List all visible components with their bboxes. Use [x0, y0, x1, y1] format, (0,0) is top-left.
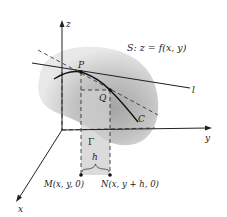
point-N-label: N(x, y + h, 0)	[100, 179, 159, 189]
y-arrowhead	[205, 126, 212, 131]
width-h-label: h	[92, 152, 98, 162]
x-arrowhead	[16, 195, 22, 203]
line-l-label: l	[192, 85, 195, 95]
point-M-label: M(x, y, 0)	[43, 179, 84, 189]
z-arrowhead	[60, 20, 65, 27]
axis-x-label: x	[18, 204, 23, 214]
point-M-dot	[79, 173, 83, 177]
curve-C-label: C	[138, 114, 145, 124]
point-P-label: P	[77, 60, 85, 70]
point-N-dot	[108, 173, 112, 177]
point-P-dot	[79, 70, 83, 74]
surface-label: S: z = f(x, y)	[127, 42, 187, 53]
axis-y-label: y	[204, 133, 211, 143]
point-Q-label: Q	[99, 93, 107, 103]
region-gamma-label: Γ	[88, 137, 94, 147]
surface-partial-derivative-diagram: z y x S: z = f(x, y) P Q C l Γ h M(x, y,…	[0, 0, 227, 217]
axis-z-label: z	[65, 19, 71, 29]
point-Q-dot	[108, 88, 112, 92]
